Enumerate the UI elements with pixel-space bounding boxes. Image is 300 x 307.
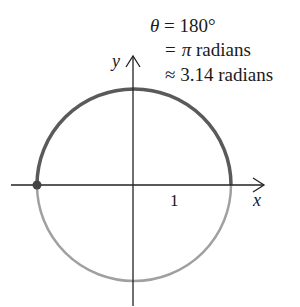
tick-label-1: 1 [170, 191, 179, 210]
angle-line-radians: =π radians [165, 39, 251, 60]
unit-circle-diagram: y x 1 θ = 180° =π radians ≈ 3.14 radians [0, 0, 300, 307]
angle-line-approx: ≈ 3.14 radians [165, 64, 273, 85]
y-axis-label: y [110, 51, 120, 71]
x-axis-label: x [252, 190, 261, 210]
untraced-arc [37, 185, 231, 281]
angle-line-degrees: θ = 180° [150, 15, 216, 36]
traced-arc [37, 89, 231, 185]
angle-point [33, 181, 42, 190]
